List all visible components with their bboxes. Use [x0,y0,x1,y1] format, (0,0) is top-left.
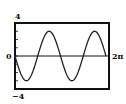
y-max-label: 4 [15,12,21,20]
x-max-label: 2π [112,52,123,60]
y-min-label: −4 [12,92,24,100]
origin-label: 0 [6,52,12,60]
